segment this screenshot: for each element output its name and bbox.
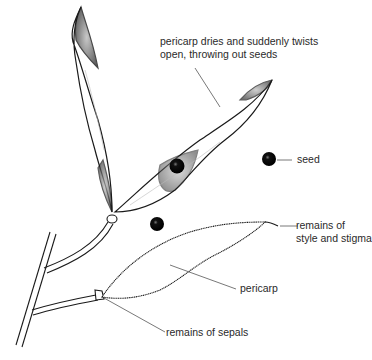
label-pericarp-twists-line2: open, throwing out seeds: [160, 48, 277, 61]
label-seed: seed: [297, 153, 320, 166]
main-stem: [16, 232, 56, 347]
label-remains-of-sepals: remains of sepals: [166, 326, 248, 339]
label-style-stigma-line1: remains of: [296, 219, 345, 232]
leader-sepals: [104, 298, 165, 332]
lower-branch: [32, 290, 104, 315]
leader-pericarp-twists: [195, 68, 220, 107]
seed-in-pod: [170, 159, 185, 174]
twisted-pericarp-upper: [115, 80, 272, 212]
upper-branch: [44, 215, 117, 273]
label-pericarp-twists-line1: pericarp dries and suddenly twists: [160, 35, 318, 48]
label-style-stigma-line2: style and stigma: [296, 232, 372, 245]
seed-falling: [150, 217, 164, 231]
twisted-pericarp-left: [72, 7, 112, 212]
seed-released: [262, 152, 276, 166]
label-pericarp: pericarp: [240, 282, 278, 295]
